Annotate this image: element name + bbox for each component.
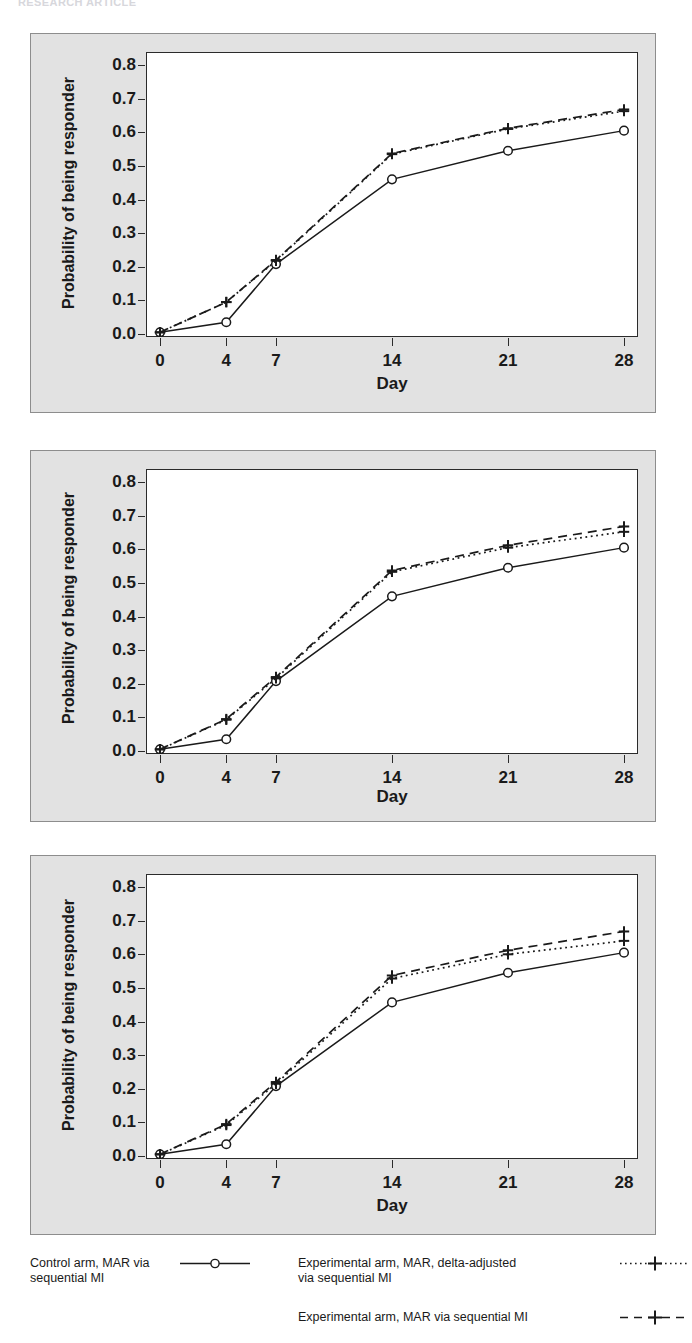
x-tick-label: 28 [604, 351, 644, 371]
legend-entry-delta-adjusted: Experimental arm, MAR, delta-adjusted vi… [298, 1256, 692, 1286]
x-tick-mark [508, 1160, 509, 1168]
x-tick-mark [276, 1160, 277, 1168]
figure-legend: Control arm, MAR via sequential MI Exper… [0, 1248, 692, 1343]
y-tick-mark [138, 200, 145, 201]
data-point-circle [504, 147, 513, 156]
y-tick-label: 0.8 [78, 878, 136, 895]
x-tick-mark [160, 338, 161, 346]
x-tick-label: 14 [372, 768, 412, 788]
data-point-circle [388, 175, 397, 184]
plot-svg-2 [146, 469, 638, 754]
x-tick-label: 21 [488, 1173, 528, 1193]
y-tick-label: 0.5 [78, 979, 136, 996]
y-tick-mark [138, 650, 145, 651]
y-tick-mark [138, 99, 145, 100]
y-tick-label: 0.1 [78, 1113, 136, 1130]
legend-label-control: Control arm, MAR via sequential MI [30, 1256, 149, 1286]
y-tick-label: 0.2 [78, 258, 136, 275]
y-tick-mark [138, 267, 145, 268]
y-tick-label: 0.1 [78, 708, 136, 725]
x-tick-mark [226, 338, 227, 346]
x-tick-mark [226, 1160, 227, 1168]
y-tick-mark [138, 132, 145, 133]
x-tick-label: 4 [206, 1173, 246, 1193]
data-point-circle [620, 948, 629, 957]
x-tick-label: 14 [372, 351, 412, 371]
legend-entry-mar: Experimental arm, MAR via sequential MI [298, 1310, 692, 1325]
y-tick-label: 0.5 [78, 574, 136, 591]
y-tick-mark [138, 717, 145, 718]
x-tick-mark [392, 1160, 393, 1168]
y-tick-mark [138, 684, 145, 685]
y-tick-mark [138, 65, 145, 66]
plot-wrapper-2: Probability of being responder 0.00.10.2… [31, 451, 655, 821]
y-tick-mark [138, 583, 145, 584]
y-tick-label: 0.4 [78, 1013, 136, 1030]
data-point-circle [222, 318, 231, 327]
y-tick-label: 0.7 [78, 90, 136, 107]
plot-svg-3 [146, 874, 638, 1159]
x-tick-label: 7 [256, 1173, 296, 1193]
x-tick-mark [276, 338, 277, 346]
x-tick-mark [276, 755, 277, 763]
x-axis-label-2: Day [146, 787, 638, 807]
data-point-circle [388, 592, 397, 601]
x-tick-mark [624, 1160, 625, 1168]
y-tick-label: 0.0 [78, 325, 136, 342]
data-point-plus [619, 521, 629, 531]
x-tick-label: 28 [604, 1173, 644, 1193]
x-tick-label: 7 [256, 768, 296, 788]
data-point-circle [222, 1140, 231, 1149]
x-tick-mark [226, 755, 227, 763]
page-header-fragment: RESEARCH ARTICLE [18, 0, 358, 8]
x-tick-label: 4 [206, 351, 246, 371]
y-tick-label: 0.3 [78, 224, 136, 241]
x-axis-label-1: Day [146, 374, 638, 394]
chart-panel-1: Probability of being responder 0.00.10.2… [30, 33, 656, 413]
legend-label-delta-adjusted: Experimental arm, MAR, delta-adjusted vi… [298, 1256, 516, 1286]
y-tick-mark [138, 549, 145, 550]
plot-wrapper-1: Probability of being responder 0.00.10.2… [31, 34, 655, 412]
y-tick-label: 0.8 [78, 56, 136, 73]
y-tick-label: 0.1 [78, 291, 136, 308]
data-point-circle [222, 735, 231, 744]
figure-page: RESEARCH ARTICLE Probability of being re… [0, 0, 692, 1343]
x-tick-mark [392, 338, 393, 346]
y-tick-label: 0.4 [78, 608, 136, 625]
y-tick-mark [138, 617, 145, 618]
legend-entry-control: Control arm, MAR via sequential MI [30, 1256, 260, 1286]
x-tick-label: 0 [140, 768, 180, 788]
y-tick-mark [138, 300, 145, 301]
data-point-plus [503, 123, 513, 133]
x-tick-label: 7 [256, 351, 296, 371]
y-axis-label-2: Probability of being responder [60, 478, 78, 738]
y-tick-mark [138, 921, 145, 922]
y-axis-label-1: Probability of being responder [60, 63, 78, 323]
y-tick-mark [138, 334, 145, 335]
y-tick-label: 0.5 [78, 157, 136, 174]
legend-label-mar: Experimental arm, MAR via sequential MI [298, 1310, 528, 1325]
y-tick-mark [138, 1022, 145, 1023]
data-point-circle [504, 969, 513, 978]
y-tick-label: 0.0 [78, 742, 136, 759]
y-tick-mark [138, 954, 145, 955]
x-tick-mark [392, 755, 393, 763]
y-tick-label: 0.3 [78, 641, 136, 658]
y-tick-label: 0.0 [78, 1147, 136, 1164]
data-point-plus [503, 540, 513, 550]
y-tick-label: 0.4 [78, 191, 136, 208]
y-tick-label: 0.7 [78, 912, 136, 929]
y-tick-label: 0.2 [78, 1080, 136, 1097]
y-tick-mark [138, 233, 145, 234]
y-tick-mark [138, 751, 145, 752]
x-tick-label: 14 [372, 1173, 412, 1193]
y-axis-label-3: Probability of being responder [60, 885, 78, 1145]
data-point-plus [619, 936, 629, 946]
plot-wrapper-3: Probability of being responder 0.00.10.2… [31, 856, 655, 1234]
y-tick-mark [138, 166, 145, 167]
data-point-circle [620, 543, 629, 552]
x-tick-mark [160, 1160, 161, 1168]
x-tick-mark [624, 338, 625, 346]
y-tick-label: 0.3 [78, 1046, 136, 1063]
chart-panel-2: Probability of being responder 0.00.10.2… [30, 450, 656, 822]
